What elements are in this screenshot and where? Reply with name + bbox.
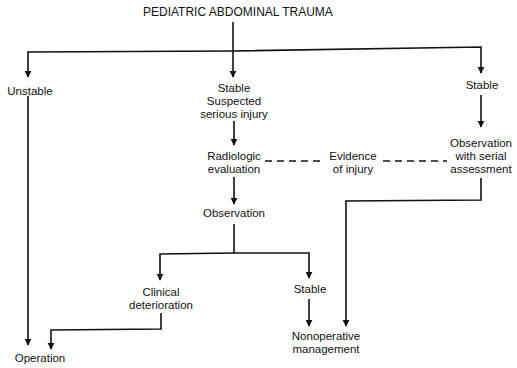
node-evidence-of-injury: Evidence of injury — [322, 150, 384, 176]
node-observation-serial-assessment: Observation with serial assessment — [445, 137, 517, 176]
connector-branch-to-stable-right — [233, 47, 481, 73]
node-line: Stable — [460, 79, 504, 92]
node-observation: Observation — [196, 207, 272, 220]
node-line: Radiologic — [200, 150, 268, 163]
node-line: Stable — [288, 283, 332, 296]
node-line: evaluation — [200, 163, 268, 176]
diagram-title: PEDIATRIC ABDOMINAL TRAUMA — [143, 6, 323, 19]
flowchart-connectors — [0, 0, 517, 368]
connector-clinical-to-operation — [51, 313, 161, 349]
node-line: Stable — [190, 82, 278, 95]
connector-branch-to-stable-lower — [234, 253, 309, 278]
node-unstable: Unstable — [2, 85, 58, 98]
node-line: Operation — [10, 352, 70, 365]
node-stable-suspected-injury: Stable Suspected serious injury — [190, 82, 278, 121]
node-unstable-line: Unstable — [2, 85, 58, 98]
node-radiologic-evaluation: Radiologic evaluation — [200, 150, 268, 176]
node-line: management — [290, 343, 362, 356]
node-operation: Operation — [10, 352, 70, 365]
node-line: with serial — [445, 150, 517, 163]
node-line: Evidence — [322, 150, 384, 163]
node-line: deterioration — [120, 299, 202, 312]
node-line: Observation — [196, 207, 272, 220]
node-stable-right: Stable — [460, 79, 504, 92]
node-stable-lower: Stable — [288, 283, 332, 296]
node-line: of injury — [322, 163, 384, 176]
node-clinical-deterioration: Clinical deterioration — [120, 286, 202, 312]
node-line: Clinical — [120, 286, 202, 299]
node-line: Observation — [445, 137, 517, 150]
node-nonoperative-management: Nonoperative management — [290, 330, 362, 356]
node-line: serious injury — [190, 108, 278, 121]
node-line: Suspected — [190, 95, 278, 108]
node-line: assessment — [445, 163, 517, 176]
connector-branch-to-unstable — [28, 51, 233, 77]
node-line: Nonoperative — [290, 330, 362, 343]
connector-branch-to-clinical — [160, 253, 234, 280]
connector-observation-serial-to-nonoperative — [346, 178, 481, 326]
